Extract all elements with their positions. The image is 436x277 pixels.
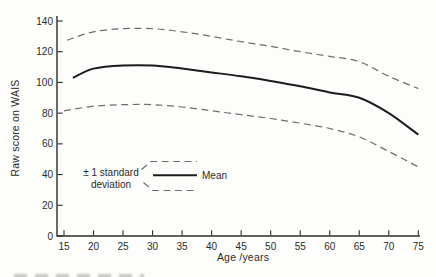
x-tick-label: 35 (177, 241, 189, 252)
y-tick-label: 140 (36, 16, 53, 27)
x-tick-label: 45 (236, 241, 248, 252)
legend-upper-sd-line (142, 162, 198, 170)
legend-mean-label: Mean (202, 170, 227, 181)
x-tick-label: 20 (88, 241, 100, 252)
y-tick-label: 60 (42, 138, 54, 149)
x-axis-title: Age /years (217, 251, 269, 263)
x-tick-label: 65 (354, 241, 366, 252)
y-tick-label: 20 (42, 200, 54, 211)
x-tick-label: 50 (265, 241, 277, 252)
y-tick-label: 0 (47, 231, 53, 242)
y-tick-label: 40 (42, 169, 54, 180)
x-tick-label: 30 (147, 241, 159, 252)
y-tick-label: 80 (42, 108, 54, 119)
x-tick-label: 55 (295, 241, 307, 252)
x-tick-label: 70 (383, 241, 395, 252)
series-lower-sd (64, 104, 418, 166)
wais-chart: Raw score on WAIS Age /years 02040608010… (0, 0, 436, 277)
legend-deviation-label-line1: ± 1 standard (83, 167, 139, 178)
x-tick-label: 75 (413, 241, 425, 252)
series-mean (73, 65, 418, 134)
x-tick-label: 25 (117, 241, 129, 252)
x-tick-label: 40 (206, 241, 218, 252)
axes (57, 16, 420, 236)
chart-content: 0204060801001201401520253035404550556065… (36, 16, 424, 252)
y-tick-label: 100 (36, 77, 53, 88)
x-tick-label: 60 (324, 241, 336, 252)
legend-deviation-label-line2: deviation (91, 179, 131, 190)
series-upper-sd (67, 28, 418, 88)
wais-figure: Raw score on WAIS Age /years 02040608010… (0, 0, 436, 277)
y-axis-title: Raw score on WAIS (9, 80, 21, 177)
y-tick-label: 120 (36, 46, 53, 57)
x-tick-label: 15 (58, 241, 70, 252)
legend-lower-sd-line (144, 183, 198, 191)
